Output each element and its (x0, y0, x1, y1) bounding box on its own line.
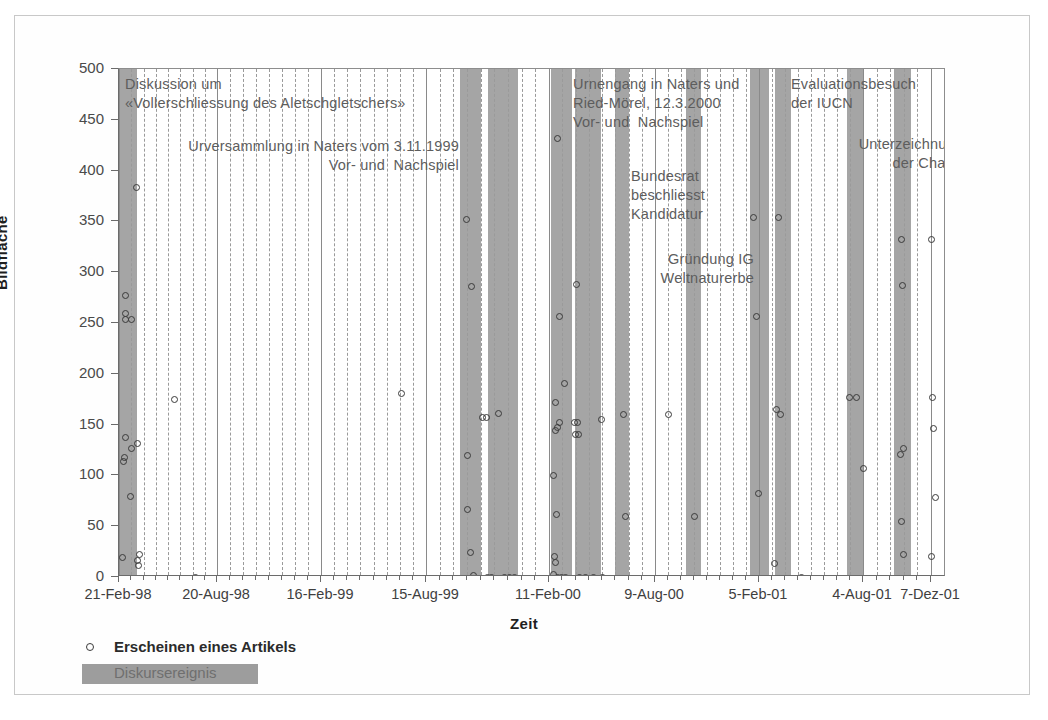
data-point (846, 394, 853, 401)
data-point (552, 559, 559, 566)
data-point (134, 440, 141, 447)
x-tick-mark-minor (745, 576, 746, 580)
grid-line-minor (144, 69, 145, 575)
data-point (562, 574, 569, 577)
x-tick-mark (654, 576, 655, 582)
data-point (860, 465, 867, 472)
x-tick-mark-minor (480, 576, 481, 580)
x-tick-mark-minor (601, 576, 602, 580)
annot-diskussion: Diskussion um «Vollerschliessung des Ale… (125, 75, 406, 113)
y-tick-label: 200 (58, 364, 104, 381)
plot-area: Diskussion um «Vollerschliessung des Ale… (118, 68, 945, 576)
x-tick-mark-minor (719, 576, 720, 580)
data-point (463, 216, 470, 223)
grid-line-minor (602, 69, 603, 575)
x-tick-mark-minor (192, 576, 193, 580)
data-point (128, 316, 135, 323)
grid-line-minor (467, 69, 468, 575)
x-tick-mark-minor (466, 576, 467, 580)
grid-line-minor (681, 69, 682, 575)
x-tick-label: 20-Aug-98 (182, 586, 250, 602)
grid-line-minor (720, 69, 721, 575)
annot-urnengang: Urnengang in Naters und Ried-Mörel, 12.3… (573, 75, 740, 132)
data-point (898, 518, 905, 525)
y-tick-label: 300 (58, 262, 104, 279)
y-tick-mark (111, 271, 118, 272)
legend-label-artikel: Erscheinen eines Artikels (114, 636, 296, 658)
data-point (483, 414, 490, 421)
data-point (691, 513, 698, 520)
x-tick-label: 15-Aug-99 (391, 586, 459, 602)
data-point (552, 427, 559, 434)
data-point (398, 390, 405, 397)
y-tick-mark (111, 525, 118, 526)
grid-line-minor (535, 69, 536, 575)
y-tick-label: 450 (58, 110, 104, 127)
data-point (771, 560, 778, 567)
x-tick-mark-minor (797, 576, 798, 580)
data-point (464, 452, 471, 459)
y-tick-mark (111, 576, 118, 577)
x-tick-mark-minor (204, 576, 205, 580)
grid-line-minor (481, 69, 482, 575)
data-point (122, 434, 129, 441)
grid-line-minor (668, 69, 669, 575)
grid-line-minor (562, 69, 563, 575)
grid-line-major (759, 69, 760, 575)
y-tick-mark (111, 474, 118, 475)
grid-line-major (119, 69, 120, 575)
data-point (598, 416, 605, 423)
data-point (136, 551, 143, 558)
grid-line-major (549, 69, 550, 575)
annot-urversammlung: Urversammlung in Naters vom 3.11.1999 Vo… (188, 137, 459, 175)
x-tick-label: 11-Feb-00 (515, 586, 581, 602)
x-tick-label: 21-Feb-98 (85, 586, 152, 602)
x-tick-label: 4-Aug-01 (832, 586, 892, 602)
x-tick-mark (862, 576, 863, 582)
x-tick-mark-minor (307, 576, 308, 580)
x-tick-mark-minor (903, 576, 904, 580)
x-tick-mark-minor (399, 576, 400, 580)
grid-line-minor (850, 69, 851, 575)
data-point (620, 411, 627, 418)
data-point (929, 394, 936, 401)
x-tick-label: 5-Feb-01 (729, 586, 788, 602)
y-tick-mark (111, 424, 118, 425)
data-point (135, 562, 142, 569)
x-tick-mark-minor (386, 576, 387, 580)
x-tick-mark-minor (575, 576, 576, 580)
x-tick-mark-minor (268, 576, 269, 580)
x-tick-mark-minor (359, 576, 360, 580)
grid-line-minor (494, 69, 495, 575)
data-point (928, 553, 935, 560)
data-point (932, 494, 939, 501)
data-point (511, 574, 518, 577)
data-point (750, 214, 757, 221)
legend-label-diskursereignis: Diskursereignis (114, 662, 217, 684)
x-tick-mark-minor (493, 576, 494, 580)
grid-line-minor (615, 69, 616, 575)
annot-evaluation: Evaluationsbesuch der IUCN (791, 75, 916, 113)
x-tick-mark-minor (333, 576, 334, 580)
x-tick-mark-minor (346, 576, 347, 580)
data-point (122, 292, 129, 299)
data-point (900, 551, 907, 558)
y-tick-mark (111, 322, 118, 323)
data-point (777, 411, 784, 418)
grid-line-minor (576, 69, 577, 575)
x-tick-mark-minor (521, 576, 522, 580)
grid-line-minor (589, 69, 590, 575)
x-tick-mark (930, 576, 931, 582)
y-tick-mark (111, 220, 118, 221)
x-tick-mark-minor (534, 576, 535, 580)
y-tick-label: 350 (58, 211, 104, 228)
data-point (930, 425, 937, 432)
data-point (753, 313, 760, 320)
data-point (470, 572, 477, 576)
grid-line-minor (629, 69, 630, 575)
y-tick-mark (111, 373, 118, 374)
data-point (798, 574, 805, 577)
figure-root: Bildfläche 05010015020025030035040045050… (0, 0, 1048, 720)
x-tick-mark-minor (784, 576, 785, 580)
x-tick-mark-minor (255, 576, 256, 580)
